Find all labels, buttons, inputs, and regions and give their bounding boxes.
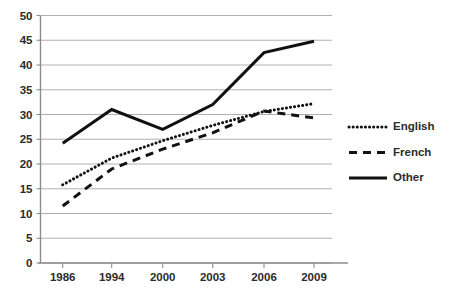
legend-label: French <box>393 146 431 158</box>
y-axis-tick-label: 40 <box>20 59 33 71</box>
chart-canvas: 05101520253035404550 1986199420002003200… <box>0 0 450 291</box>
x-axis-tick-label: 2000 <box>150 271 176 283</box>
y-axis-tick-label: 15 <box>20 183 33 195</box>
legend-label: Other <box>393 171 424 183</box>
y-axis-tick-label: 0 <box>26 257 32 269</box>
y-axis-tick-label: 10 <box>20 208 33 220</box>
x-axis-tick-label: 1986 <box>50 271 76 283</box>
x-axis-tick-label: 2009 <box>301 271 327 283</box>
y-axis-tick-label: 50 <box>20 10 33 22</box>
y-axis-tick-label: 35 <box>20 84 33 96</box>
y-axis-tick-label: 30 <box>20 109 33 121</box>
y-axis-tick-label: 25 <box>20 133 33 145</box>
y-axis-tick-label: 5 <box>26 232 33 244</box>
x-axis-tick-label: 2006 <box>251 271 277 283</box>
line-chart: 05101520253035404550 1986199420002003200… <box>0 0 450 291</box>
y-axis-tick-label: 20 <box>20 158 33 170</box>
legend-label: English <box>393 120 435 132</box>
y-axis-tick-label: 45 <box>20 34 33 46</box>
plot-background <box>0 0 450 291</box>
x-axis-tick-label: 1994 <box>99 271 125 283</box>
x-axis-tick-label: 2003 <box>200 271 226 283</box>
